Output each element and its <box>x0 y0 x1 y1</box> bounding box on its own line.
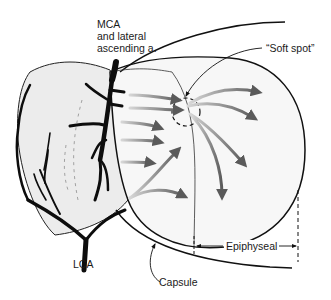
mca-label: MCA and lateral ascending a. <box>97 18 157 54</box>
soft-spot-label: “Soft spot” <box>266 42 314 54</box>
mca-label-line-2: and lateral <box>97 30 157 42</box>
epiphyseal-blood-supply-diagram: MCA and lateral ascending a. “Soft spot”… <box>0 0 331 300</box>
capsule-label: Capsule <box>159 276 198 288</box>
mca-label-line-1: MCA <box>97 18 157 30</box>
mca-label-line-3: ascending a. <box>97 42 157 54</box>
epiphyseal-label: Epiphyseal <box>224 240 279 252</box>
lca-label: LCA <box>73 258 93 270</box>
epiphysis-outline <box>110 57 305 248</box>
